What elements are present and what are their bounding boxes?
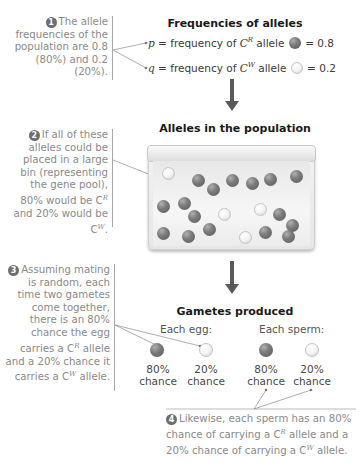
cr-allele-ball (188, 210, 201, 223)
step-2-badge: 2 (29, 130, 40, 141)
sperm-label: Each sperm: (259, 323, 324, 335)
gametes-title: Gametes produced (150, 305, 320, 318)
bin-rim (147, 145, 316, 162)
cr-allele-ball (203, 223, 216, 236)
cr-allele-ball (264, 173, 277, 186)
egg-cr-chance: 80%chance (138, 363, 178, 387)
cr-allele-icon (289, 37, 301, 49)
sperm-cr-chance: 80%chance (246, 363, 286, 387)
cw-allele-ball (218, 208, 231, 221)
note-2: 2If all of these alleles could be placed… (5, 129, 113, 227)
sperm-cw-ball (305, 343, 319, 357)
frequencies-title: Frequencies of alleles (150, 17, 320, 30)
cr-allele-ball (259, 226, 272, 239)
cw-allele-icon (291, 62, 303, 74)
note-3: 3Assuming mating is random, each time tw… (2, 264, 115, 391)
cr-allele-ball (282, 230, 295, 243)
population-title: Alleles in the population (150, 122, 320, 135)
cw-allele-ball (254, 203, 267, 216)
step-4-badge: 4 (166, 414, 177, 425)
egg-cr-ball (150, 343, 164, 357)
cr-allele-ball (178, 197, 191, 210)
cw-allele-ball (239, 231, 252, 244)
note-1-text: The allele frequencies of the population… (15, 16, 108, 77)
q-frequency-row: q = frequency of CW allele = 0.2 (148, 61, 336, 74)
cr-allele-ball (182, 230, 195, 243)
gene-pool-bin (148, 146, 315, 250)
sperm-cr-ball (259, 343, 273, 357)
p-frequency-row: p = frequency of CR allele = 0.8 (148, 36, 334, 49)
cr-allele-ball (192, 174, 205, 187)
cr-allele-ball (273, 208, 286, 221)
cr-allele-ball (246, 177, 259, 190)
cr-allele-ball (157, 200, 170, 213)
step-1-badge: 1 (46, 17, 57, 28)
cw-allele-ball (162, 167, 175, 180)
note-1: 1The allele frequencies of the populatio… (5, 16, 113, 80)
note-4: 4Likewise, each sperm has an 80% chance … (166, 413, 354, 458)
cr-allele-ball (290, 170, 303, 183)
cr-allele-ball (207, 183, 220, 196)
egg-cw-ball (199, 343, 213, 357)
egg-label: Each egg: (160, 323, 212, 335)
sperm-cw-chance: 20%chance (292, 363, 332, 387)
egg-cw-chance: 20%chance (186, 363, 226, 387)
cr-allele-ball (226, 174, 239, 187)
step-3-badge: 3 (8, 265, 19, 276)
cr-allele-ball (157, 227, 170, 240)
